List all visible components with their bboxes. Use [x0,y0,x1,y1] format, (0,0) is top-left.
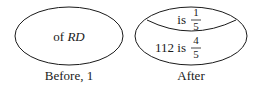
after-caption: After [177,68,205,83]
after-divider-curve [147,20,236,31]
after-top-numerator: 1 [193,6,199,18]
after-bottom-prefix: 112 is [155,40,186,55]
after-top-prefix: is [177,12,186,27]
after-bottom-numerator: 4 [193,34,199,46]
before-diagram: of RD Before, 1 [15,7,123,83]
before-caption: Before, 1 [45,68,93,83]
before-label: of RD [53,29,85,44]
after-ellipse [135,7,247,65]
after-bottom-denominator: 5 [193,48,199,60]
after-diagram: is 1 5 112 is 4 5 After [135,6,247,83]
diagram-canvas: of RD Before, 1 is 1 5 112 is 4 5 After [0,0,258,88]
after-top-denominator: 5 [193,20,199,32]
